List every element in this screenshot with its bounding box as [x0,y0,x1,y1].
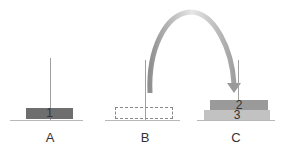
curved-arrow-icon [150,12,234,93]
peg-label-a: A [40,130,60,145]
base-b [105,120,180,121]
empty-disk-slot [115,107,173,119]
disk-2: 2 [210,100,268,110]
base-a [10,120,83,121]
disk-1: 1 [26,108,73,119]
peg-label-c: C [226,130,246,145]
peg-label-b: B [135,130,155,145]
